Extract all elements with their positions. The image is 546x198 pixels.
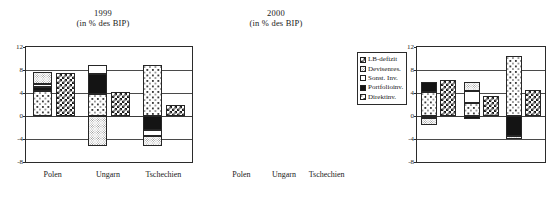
y-axis-tick-label: 8: [20, 67, 24, 74]
bar-segment-devisenres: [33, 72, 52, 84]
bar-segment-lb-defizit: [166, 105, 185, 117]
bar-segment-direktinv: [464, 103, 480, 116]
bar-segment-lb-defizit: [56, 73, 75, 116]
bar-segment-portfolioinv: [464, 116, 480, 119]
bar-segment-portfolioinv: [143, 116, 162, 130]
lb-defizit-bar-polen[interactable]: [56, 47, 75, 162]
x-axis-label-ungarn: Ungarn: [96, 170, 120, 179]
bar-segment-direktinv: [33, 91, 52, 116]
bar-segment-direktinv: [506, 56, 522, 116]
panel-title-1999: 1999 (in % des BIP): [0, 8, 206, 28]
bar-segment-lb-defizit: [525, 90, 541, 116]
bar-segment-lb-defizit: [483, 96, 499, 116]
legend-item-lb-defizit[interactable]: LB-defizit: [360, 55, 403, 64]
lb-defizit-bar-polen[interactable]: [440, 47, 456, 162]
y-axis-tick-label: 8: [411, 67, 415, 74]
x-axis-label-tschechien: Tschechien: [145, 170, 181, 179]
x-axis-label-tschechien: Tschechien: [309, 170, 345, 179]
stacked-bar-polen[interactable]: [33, 47, 52, 162]
stacked-bar-tschechien[interactable]: [143, 47, 162, 162]
bar-segment-devisenres: [143, 136, 162, 146]
chart-legend: LB-defizitDevisenres.Sonst. Inv.Portfoli…: [357, 52, 407, 105]
y-axis-tick-label: 12: [16, 44, 23, 51]
lb-defizit-bar-tschechien[interactable]: [525, 47, 541, 162]
legend-swatch-icon: [360, 57, 366, 63]
x-axis-label-polen: Polen: [44, 170, 62, 179]
bar-segment-direktinv: [143, 65, 162, 116]
legend-item-label: Devisenres.: [368, 66, 401, 73]
bar-segment-portfolioinv: [88, 74, 107, 94]
y-tick-mark: [414, 139, 417, 140]
legend-swatch-icon: [360, 85, 366, 91]
bar-segment-lb-defizit: [111, 92, 130, 116]
legend-item-devisenres[interactable]: Devisenres.: [360, 64, 403, 73]
bar-segment-devisenres: [464, 82, 480, 91]
legend-item-label: LB-defizit: [368, 56, 397, 63]
chart-panel-1999: 1999 (in % des BIP) 12840-4-8 PolenUngar…: [0, 0, 206, 198]
x-axis-label-polen: Polen: [232, 170, 250, 179]
lb-defizit-bar-ungarn[interactable]: [111, 47, 130, 162]
stacked-bar-tschechien[interactable]: [506, 47, 522, 162]
plot-area-1999: 12840-4-8: [25, 46, 193, 163]
stacked-bar-ungarn[interactable]: [88, 47, 107, 162]
legend-item-label: Portfolioinv.: [368, 84, 403, 91]
bar-segment-devisenres: [506, 136, 522, 139]
y-tick-mark: [414, 162, 417, 163]
stacked-bar-polen[interactable]: [421, 47, 437, 162]
bar-segment-lb-defizit: [440, 80, 456, 116]
legend-swatch-icon: [360, 66, 366, 72]
y-axis-tick-label: 12: [407, 44, 414, 51]
legend-swatch-icon: [360, 94, 366, 100]
y-axis-tick-label: 4: [20, 90, 24, 97]
legend-item-label: Sonst. Inv.: [368, 75, 398, 82]
y-axis-tick-label: -8: [17, 159, 23, 166]
y-axis-tick-label: -4: [408, 136, 414, 143]
bar-segment-direktinv: [88, 94, 107, 116]
legend-item-direktinv[interactable]: Direktinv.: [360, 93, 403, 102]
bar-segment-portfolioinv: [33, 87, 52, 91]
x-axis-label-ungarn: Ungarn: [272, 170, 296, 179]
panel-title-2000: 2000 (in % des BIP): [196, 8, 356, 28]
y-axis-tick-label: -4: [17, 136, 23, 143]
chart-panel-2000: 2000 (in % des BIP) 12840-4-8 PolenUngar…: [196, 0, 356, 198]
bar-segment-devisenres: [88, 116, 107, 146]
bar-segment-sonst-inv: [88, 65, 107, 74]
y-tick-mark: [23, 162, 26, 163]
panel-title-year: 1999: [0, 8, 206, 18]
y-axis-tick-label: 0: [20, 113, 24, 120]
lb-defizit-bar-tschechien[interactable]: [166, 47, 185, 162]
y-axis-tick-label: -8: [408, 159, 414, 166]
legend-item-portfolioinv[interactable]: Portfolioinv.: [360, 83, 403, 92]
lb-defizit-bar-ungarn[interactable]: [483, 47, 499, 162]
legend-item-sonst-inv[interactable]: Sonst. Inv.: [360, 74, 403, 83]
y-axis-tick-label: 0: [411, 113, 415, 120]
y-axis-tick-label: 4: [411, 90, 415, 97]
stacked-bar-ungarn[interactable]: [464, 47, 480, 162]
y-tick-mark: [414, 47, 417, 48]
legend-swatch-icon: [360, 75, 366, 81]
panel-title-year: 2000: [196, 8, 356, 18]
panel-title-unit: (in % des BIP): [196, 18, 356, 28]
bar-segment-devisenres: [421, 118, 437, 125]
plot-area-2000: 12840-4-8: [416, 46, 546, 163]
legend-item-label: Direktinv.: [368, 94, 396, 101]
bar-segment-sonst-inv: [464, 91, 480, 104]
y-tick-mark: [23, 47, 26, 48]
bar-segment-portfolioinv: [506, 116, 522, 136]
bar-segment-direktinv: [421, 92, 437, 116]
bar-segment-portfolioinv: [421, 82, 437, 93]
panel-title-unit: (in % des BIP): [0, 18, 206, 28]
y-tick-mark: [23, 139, 26, 140]
bar-segment-sonst-inv: [33, 84, 52, 87]
